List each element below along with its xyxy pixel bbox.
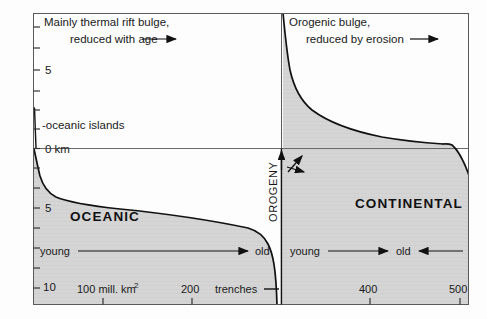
orogenic-bulge-annotation-line2: reduced by erosion [306, 33, 404, 45]
y-tick-label-5-above: 5 [45, 64, 51, 76]
y-tick-label-10: 10 [43, 281, 56, 293]
figure-container: 5 0 km 5 10 100 mill. km 2 200 400 500 t… [0, 0, 487, 319]
y-tick-label-5-below: 5 [45, 202, 51, 214]
x-tick-label-400: 400 [359, 283, 377, 295]
x-tick-label-100-superscript: 2 [134, 281, 139, 290]
continental-label: CONTINENTAL [355, 196, 463, 211]
orogenic-bulge-annotation-line1: Orogenic bulge, [289, 16, 370, 28]
hypsometric-profile-diagram: 5 0 km 5 10 100 mill. km 2 200 400 500 t… [0, 0, 487, 319]
orogeny-label: OROGENY [267, 162, 279, 222]
rift-bulge-annotation-line1: Mainly thermal rift bulge, [44, 16, 169, 28]
continental-old-label: old [396, 245, 411, 257]
continental-young-label: young [290, 245, 320, 257]
x-tick-label-500: 500 [449, 283, 467, 295]
oceanic-young-label: young [40, 245, 70, 257]
x-tick-label-200: 200 [181, 283, 199, 295]
oceanic-old-label: old [255, 245, 270, 257]
oceanic-label: OCEANIC [70, 209, 140, 224]
trenches-label: trenches [215, 283, 258, 295]
oceanic-islands-label: -oceanic islands [42, 119, 125, 131]
y-tick-label-0km: 0 km [45, 143, 70, 155]
x-tick-label-100: 100 mill. km [77, 283, 136, 295]
